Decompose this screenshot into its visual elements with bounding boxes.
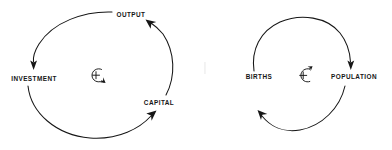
reinforcing-loop-symbol-right — [299, 66, 312, 82]
node-label-population: POPULATION — [331, 73, 377, 80]
arrowhead-into-output — [146, 20, 157, 29]
link-investment-to-capital — [28, 86, 157, 138]
node-label-births: BIRTHS — [246, 73, 273, 80]
link-capital-to-output — [146, 20, 173, 96]
arc-investment-to-capital — [28, 86, 151, 138]
arc-population-to-births — [262, 86, 345, 131]
arc-capital-to-output — [151, 23, 173, 95]
clockwise-arrowhead-icon — [100, 77, 105, 83]
link-births-to-population — [253, 17, 354, 71]
arc-births-to-population — [253, 17, 350, 71]
node-label-investment: INVESTMENT — [11, 75, 57, 82]
paper-smudge — [204, 62, 205, 74]
causal-loop-diagram-figure: OUTPUT INVESTMENT CAPITAL BIRTHS POPULAT… — [0, 0, 392, 150]
reinforcing-loop-symbol-left — [92, 69, 106, 83]
economic-growth-loop: OUTPUT INVESTMENT CAPITAL — [11, 11, 174, 138]
link-output-to-investment — [30, 12, 112, 70]
arc-output-to-investment — [33, 12, 112, 62]
arrowhead-into-births — [258, 110, 268, 120]
node-label-capital: CAPITAL — [144, 99, 174, 106]
node-label-output: OUTPUT — [117, 11, 146, 18]
population-loop: BIRTHS POPULATION — [246, 17, 377, 130]
link-population-to-births — [258, 86, 346, 131]
